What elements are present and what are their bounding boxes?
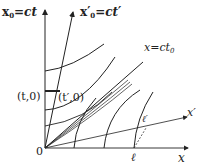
light-line-label: x=ct0	[144, 42, 174, 55]
t-prime-point-label: (t′,0)	[58, 92, 84, 103]
x-prime-axis-label: x′	[187, 107, 196, 118]
ct-axis-label: x0=ct	[2, 6, 37, 19]
ct-prime-axis-label: x′0=ct′	[80, 6, 121, 19]
projection-dashed	[134, 128, 146, 148]
hyperbola-t1	[45, 44, 104, 71]
x-axis-label: x	[178, 152, 185, 164]
ell-label: ℓ	[131, 152, 136, 163]
ell-prime-label: ℓ′	[142, 115, 148, 124]
origin-label: 0	[36, 146, 43, 157]
t-point-label: (t,0)	[17, 91, 41, 102]
spacetime-diagram: x0=ct x′0=ct′ x=ct0 (t,0) (t′,0) x′ x 0 …	[0, 0, 203, 167]
diagram-graphics	[0, 0, 203, 167]
